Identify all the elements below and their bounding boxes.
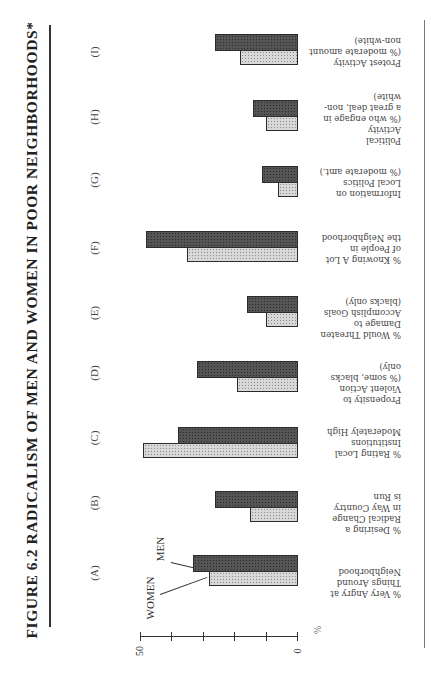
category-label-line: only): [305, 361, 401, 372]
category-label-line: Protest Activity: [305, 57, 401, 68]
bar-men: [215, 491, 298, 508]
bar-men: [178, 427, 298, 444]
category-label-line: Things Around: [305, 577, 401, 588]
bar-women: [240, 50, 298, 65]
category-label-line: (% some, blacks: [305, 372, 401, 383]
category-label-line: Violent Action: [305, 383, 401, 394]
category-label-line: white): [305, 91, 401, 102]
category-label-line: % Very Angry at: [305, 588, 401, 599]
y-axis-tick: [171, 632, 172, 641]
bar-women: [266, 116, 298, 131]
group-letter: (I): [87, 40, 101, 64]
group-letter: (H): [87, 105, 101, 129]
category-label-line: the Neighborhood: [305, 232, 401, 243]
y-axis-tick: [234, 632, 235, 641]
bar-men: [193, 555, 298, 572]
bottom-rule: [424, 20, 425, 648]
chart-title: FIGURE 6.2 RADICALISM OF MEN AND WOMEN I…: [22, 10, 42, 650]
category-label-line: Local Politics: [305, 177, 401, 188]
bar-women: [187, 247, 298, 262]
y-axis-tick: [297, 632, 298, 641]
category-label-line: (% who engage in: [305, 113, 401, 124]
category-label-line: Propensity to: [305, 394, 401, 405]
category-label-line: % Rating Local: [305, 448, 401, 459]
y-axis-tick: [266, 632, 267, 641]
category-label: Protest Activity(% moderate amountnon-wh…: [305, 35, 401, 68]
category-label: % Desiring aRadical Changein Way Country…: [305, 491, 401, 535]
bar-women: [143, 443, 298, 458]
category-label-line: Neighborhood: [305, 566, 401, 577]
category-label: % Very Angry atThings AroundNeighborhood: [305, 566, 401, 599]
legend-men: MEN: [154, 529, 166, 569]
legend-women: WOMEN: [144, 570, 156, 626]
bar-men: [146, 231, 298, 248]
category-label-line: Political: [305, 135, 401, 146]
category-label-line: Damage to: [305, 318, 401, 329]
category-label: % Rating LocalInstitutionsModerately Hig…: [305, 426, 401, 459]
category-label-line: (% moderate amount: [305, 46, 401, 57]
group-letter: (B): [87, 491, 101, 515]
bar-women: [237, 377, 298, 392]
bar-women: [209, 571, 298, 586]
category-label-line: (% moderate amt.): [305, 166, 401, 177]
category-label: Propensity toViolent Action(% some, blac…: [305, 361, 401, 405]
category-label-line: % Knowing A Lot: [305, 254, 401, 265]
category-label: % Would ThreatenDamage toAccomplish Goal…: [305, 296, 401, 340]
category-label-line: of People in: [305, 243, 401, 254]
category-label-line: Radical Change: [305, 513, 401, 524]
legend-women-leader-line: [160, 577, 207, 595]
group-letter: (A): [87, 561, 101, 585]
y-axis-max-label: 50: [134, 641, 146, 661]
group-letter: (C): [87, 426, 101, 450]
category-label-line: Activity: [305, 124, 401, 135]
category-label-line: non-white): [305, 35, 401, 46]
bar-women: [266, 312, 298, 327]
bar-men: [247, 296, 298, 313]
category-label-line: a great deal, non-: [305, 102, 401, 113]
legend-men-leader-line: [171, 562, 194, 568]
category-label-line: % Desiring a: [305, 524, 401, 535]
bar-women: [250, 507, 298, 522]
group-letter: (F): [87, 236, 101, 260]
group-letter: (G): [87, 168, 101, 192]
bar-men: [215, 34, 298, 51]
title-rule: [49, 25, 51, 627]
category-label-line: % Would Threaten: [305, 329, 401, 340]
y-axis-unit-label: %: [312, 624, 324, 636]
y-axis-tick: [203, 632, 204, 641]
y-axis-min-label: 0: [292, 641, 304, 661]
bar-men: [197, 361, 298, 378]
category-label: Information onLocal Politics(% moderate …: [305, 166, 401, 199]
y-axis-tick: [140, 632, 141, 641]
bar-women: [278, 182, 298, 197]
category-label: % Knowing A Lotof People inthe Neighborh…: [305, 232, 401, 265]
bar-men: [253, 100, 298, 117]
group-letter: (E): [87, 301, 101, 325]
category-label-line: Institutions: [305, 437, 401, 448]
bar-men: [262, 166, 298, 183]
category-label-line: in Way Country: [305, 502, 401, 513]
y-axis-line: [140, 636, 298, 637]
category-label-line: Information on: [305, 188, 401, 199]
category-label-line: is Run: [305, 491, 401, 502]
group-letter: (D): [87, 361, 101, 385]
category-label: PoliticalActivity(% who engage ina great…: [305, 91, 401, 146]
category-label-line: (blacks only): [305, 296, 401, 307]
category-label-line: Moderately High: [305, 426, 401, 437]
category-label-line: Accomplish Goals: [305, 307, 401, 318]
